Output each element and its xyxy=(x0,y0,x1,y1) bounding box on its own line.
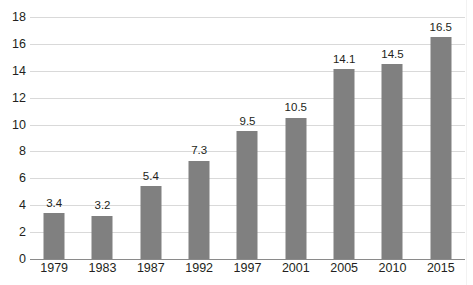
bar-value-label: 14.5 xyxy=(381,49,403,61)
x-axis-tick-label: 1992 xyxy=(185,262,213,275)
bar[interactable] xyxy=(334,69,355,259)
bar[interactable] xyxy=(430,37,451,259)
bar-value-label: 16.5 xyxy=(430,22,452,34)
y-axis-tick-label: 18 xyxy=(2,11,26,24)
bar[interactable] xyxy=(189,161,210,259)
y-axis-tick-label: 16 xyxy=(2,38,26,51)
y-axis-tick-label: 8 xyxy=(2,145,26,158)
bar-value-label: 9.5 xyxy=(239,116,255,128)
bar-value-label: 5.4 xyxy=(143,171,159,183)
bar[interactable] xyxy=(382,64,403,259)
bar-value-label: 14.1 xyxy=(333,54,355,66)
y-axis-tick-label: 14 xyxy=(2,65,26,78)
y-axis-tick-label: 6 xyxy=(2,172,26,185)
x-axis-tick-label: 1983 xyxy=(89,262,117,275)
bar-slot: 14.1 xyxy=(320,17,368,259)
x-axis-tick-label: 1997 xyxy=(234,262,262,275)
y-axis-tick-label: 0 xyxy=(2,253,26,266)
bar-value-label: 10.5 xyxy=(285,102,307,114)
x-axis-tick-label: 2005 xyxy=(330,262,358,275)
x-axis-tick-label: 1987 xyxy=(137,262,165,275)
bar-slot: 5.4 xyxy=(127,17,175,259)
bar-value-label: 3.2 xyxy=(94,200,110,212)
bar[interactable] xyxy=(140,186,161,259)
bar-slot: 14.5 xyxy=(368,17,416,259)
bar-slot: 16.5 xyxy=(417,17,465,259)
y-axis-tick-label: 2 xyxy=(2,226,26,239)
bar-value-label: 3.4 xyxy=(46,198,62,210)
bar[interactable] xyxy=(285,118,306,259)
bar[interactable] xyxy=(237,131,258,259)
y-axis-tick-label: 10 xyxy=(2,118,26,131)
chart-right-edge xyxy=(466,0,467,285)
bar-chart: 024681012141618 3.43.25.47.39.510.514.11… xyxy=(0,0,473,285)
bar-slot: 7.3 xyxy=(175,17,223,259)
bar[interactable] xyxy=(92,216,113,259)
bar-slot: 9.5 xyxy=(223,17,271,259)
bar-value-label: 7.3 xyxy=(191,145,207,157)
bar-slot: 10.5 xyxy=(272,17,320,259)
bar-slot: 3.2 xyxy=(78,17,126,259)
y-axis: 024681012141618 xyxy=(0,17,26,259)
x-axis-tick-label: 2010 xyxy=(379,262,407,275)
x-axis: 197919831987199219972001200520102015 xyxy=(30,262,465,282)
x-axis-tick-label: 2015 xyxy=(427,262,455,275)
y-axis-tick-label: 12 xyxy=(2,91,26,104)
y-axis-tick-label: 4 xyxy=(2,199,26,212)
x-axis-tick-label: 2001 xyxy=(282,262,310,275)
bar-slot: 3.4 xyxy=(30,17,78,259)
bar[interactable] xyxy=(44,213,65,259)
x-axis-tick-label: 1979 xyxy=(40,262,68,275)
x-axis-baseline xyxy=(30,259,465,260)
bars-layer: 3.43.25.47.39.510.514.114.516.5 xyxy=(30,17,465,259)
